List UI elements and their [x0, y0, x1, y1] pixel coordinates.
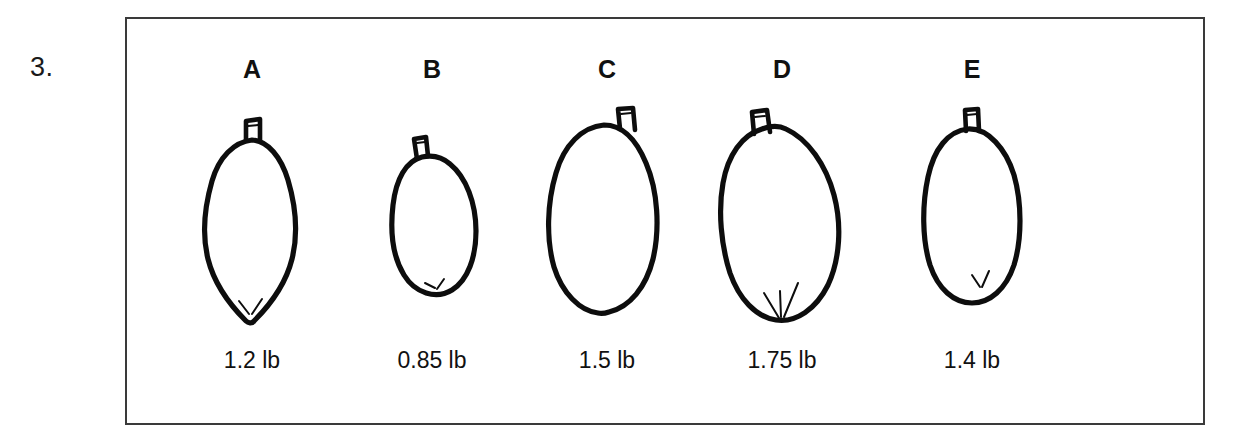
specimen-e: E 1.4 lb — [882, 19, 1062, 423]
question-number: 3. — [30, 52, 54, 83]
illustration-panel: A 1.2 lb B — [125, 17, 1205, 425]
avocado-c-drawing — [517, 107, 697, 332]
specimen-e-letter: E — [882, 57, 1062, 82]
specimen-b-letter: B — [342, 57, 522, 82]
specimen-e-weight: 1.4 lb — [882, 349, 1062, 372]
specimen-d: D 1.75 lb — [692, 19, 872, 423]
specimen-b: B 0.85 lb — [342, 19, 522, 423]
avocado-e-drawing — [882, 107, 1062, 332]
specimen-c-letter: C — [517, 57, 697, 82]
specimen-c: C 1.5 lb — [517, 19, 697, 423]
avocado-d-drawing — [692, 107, 872, 332]
specimen-c-weight: 1.5 lb — [517, 349, 697, 372]
specimen-a-weight: 1.2 lb — [162, 349, 342, 372]
specimen-d-letter: D — [692, 57, 872, 82]
avocado-a-drawing — [162, 107, 342, 332]
specimen-a: A 1.2 lb — [162, 19, 342, 423]
specimen-a-letter: A — [162, 57, 342, 82]
avocado-b-drawing — [342, 107, 522, 332]
specimen-b-weight: 0.85 lb — [342, 349, 522, 372]
specimen-d-weight: 1.75 lb — [692, 349, 872, 372]
